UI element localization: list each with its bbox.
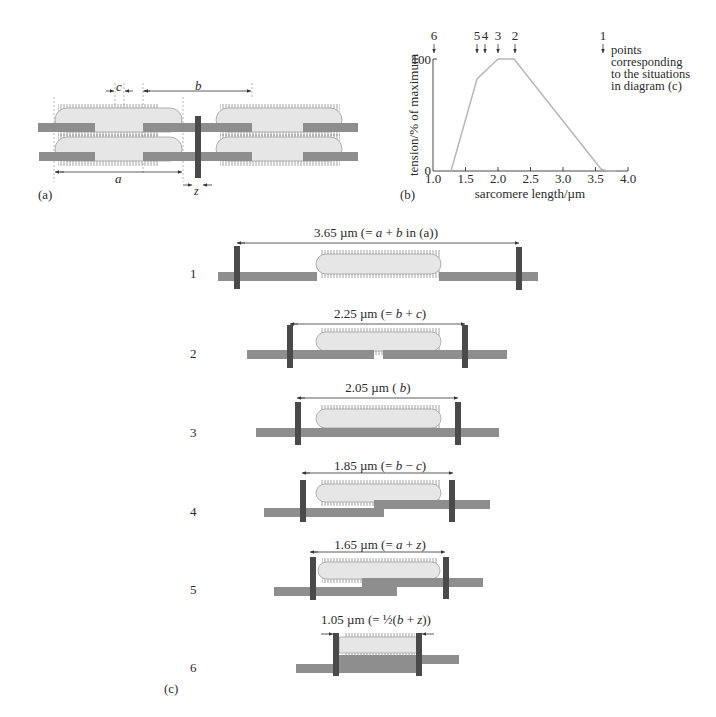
panel-a-sarcomere-diagram: c b a z (a) — [38, 78, 358, 202]
y-axis-label: tension/% of maximum — [406, 54, 421, 176]
z-line — [295, 402, 301, 445]
row-length-label: 2.05 µm ( b) — [345, 380, 410, 395]
panel-b-label: (b) — [400, 187, 415, 202]
actin-filament — [274, 587, 397, 596]
state-row-6: 6 1.05 µm (= ½(b + z)) — [190, 612, 459, 676]
x-tick: 2.0 — [490, 171, 506, 186]
legend-line: in diagram (c) — [611, 79, 682, 93]
z-line — [234, 246, 240, 289]
actin-filament — [362, 578, 483, 587]
panel-c-label: (c) — [164, 681, 178, 696]
row-length-label: 1.05 µm (= ½(b + z)) — [321, 612, 431, 627]
marker-label-5: 5 — [474, 28, 481, 43]
z-line — [416, 633, 422, 676]
x-tick: 4.0 — [620, 171, 636, 186]
marker-label-2: 2 — [512, 28, 519, 43]
state-row-4: 4 1.85 µm (= b − c) — [190, 458, 490, 522]
tension-curve — [451, 59, 616, 171]
row-number: 2 — [190, 346, 197, 361]
dimension-a-label: a — [115, 171, 122, 186]
marker-label-1: 1 — [600, 28, 607, 43]
z-line — [310, 557, 316, 600]
z-line — [300, 480, 306, 522]
myosin-filament — [216, 134, 342, 166]
actin-filament — [439, 272, 538, 281]
myosin-filament — [339, 637, 420, 653]
actin-filament — [247, 350, 374, 359]
x-tick: 3.0 — [555, 171, 571, 186]
dimension-c-label: c — [116, 79, 122, 94]
row-length-label: 2.25 µm (= b + c) — [334, 306, 426, 321]
actin-filament — [264, 508, 384, 517]
x-tick: 3.5 — [587, 171, 603, 186]
x-tick: 1.0 — [425, 171, 441, 186]
marker-label-6: 6 — [431, 28, 438, 43]
z-line — [449, 480, 455, 522]
actin-filament — [218, 272, 317, 281]
row-number: 4 — [190, 504, 197, 519]
x-axis-label: sarcomere length/µm — [475, 186, 585, 201]
dimension-b-label: b — [195, 78, 202, 93]
myosin-filament — [316, 484, 441, 502]
z-line — [333, 633, 339, 676]
row-number: 5 — [190, 582, 197, 597]
row-number: 6 — [190, 660, 197, 675]
z-line — [462, 325, 468, 368]
row-length-label: 1.85 µm (= b − c) — [334, 458, 426, 473]
row-number: 1 — [190, 266, 197, 281]
point-marker-labels: 6 5 4 3 2 1 — [431, 28, 607, 43]
panel-b-tension-chart: 100 0 1.0 1.5 2.0 2.5 3.0 3.5 4.0 sarcom… — [400, 28, 690, 202]
z-line — [455, 402, 461, 445]
state-row-3: 3 2.05 µm ( b) — [190, 380, 499, 445]
actin-filament — [296, 664, 419, 673]
z-line — [195, 116, 201, 178]
chart-axes — [433, 59, 628, 171]
actin-filament — [374, 500, 490, 509]
myosin-filament — [316, 409, 441, 428]
state-row-1: 1 3.65 µm (= a + b in (a)) — [190, 225, 538, 290]
point-markers — [434, 44, 603, 53]
myosin-filament — [316, 332, 441, 351]
myosin-filament — [318, 562, 440, 579]
x-tick-labels: 1.0 1.5 2.0 2.5 3.0 3.5 4.0 — [425, 171, 636, 186]
row-number: 3 — [190, 425, 197, 440]
actin-filament — [256, 428, 380, 437]
figure-canvas: c b a z (a) 100 0 1.0 1.5 2.0 2.5 — [0, 0, 716, 717]
row-length-label: 1.65 µm (= a + z) — [334, 537, 426, 552]
z-line — [516, 247, 522, 290]
row-length-label: 3.65 µm (= a + b in (a)) — [314, 225, 438, 240]
state-row-5: 5 1.65 µm (= a + z) — [190, 537, 483, 600]
marker-label-4: 4 — [482, 28, 489, 43]
actin-filament — [337, 655, 459, 664]
actin-filament — [378, 428, 499, 437]
dimension-z-label: z — [193, 184, 199, 198]
marker-label-3: 3 — [495, 28, 502, 43]
myosin-filament — [316, 254, 441, 274]
panel-a-label: (a) — [38, 187, 52, 202]
legend-note: points corresponding to the situations i… — [611, 43, 690, 93]
actin-filament — [383, 350, 507, 359]
x-tick: 1.5 — [457, 171, 473, 186]
z-line — [443, 557, 449, 599]
x-tick: 2.5 — [522, 171, 538, 186]
state-row-2: 2 2.25 µm (= b + c) — [190, 306, 507, 368]
z-line — [287, 325, 293, 368]
panel-c-sarcomere-states: (c) 1 3.65 µm (= a + b in (a)) 2 2.25 µm… — [164, 225, 538, 696]
